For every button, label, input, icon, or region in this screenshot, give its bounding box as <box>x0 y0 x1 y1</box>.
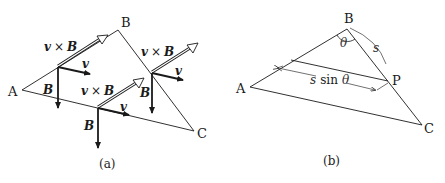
vertex-label-c: C <box>197 126 207 141</box>
vertex-label-b: B <box>121 15 131 30</box>
cross-label-bc: v×B <box>141 45 174 59</box>
vertex-label-p: P <box>392 73 401 88</box>
panel-a: A B C v×B v B v×B v B v×B v B (a) <box>7 15 207 171</box>
vertex-label-b: B <box>344 11 354 26</box>
s-sin-theta-label: ssinθ <box>310 73 350 87</box>
v-label-ab: v <box>82 57 90 71</box>
arc-s-icon <box>350 28 386 64</box>
caption-b: (b) <box>323 154 340 168</box>
cross-label-ab: v×B <box>44 40 77 54</box>
vertex-label-c: C <box>424 121 434 136</box>
b-label-ab: B <box>42 83 53 97</box>
v-label-ac: v <box>120 100 128 114</box>
s-label: s <box>373 41 379 55</box>
vertex-label-a: A <box>7 84 18 99</box>
v-label-bc: v <box>175 64 183 78</box>
figure-canvas: A B C v×B v B v×B v B v×B v B (a) <box>0 0 445 183</box>
b-label-bc: B <box>139 86 150 100</box>
theta-label: θ <box>340 36 348 50</box>
panel-b: θ s ssinθ A B C P (b) <box>235 11 434 168</box>
caption-a: (a) <box>99 157 116 171</box>
b-label-ac: B <box>83 119 94 133</box>
cross-label-ac: v×B <box>81 84 114 98</box>
vertex-label-a: A <box>235 81 246 96</box>
